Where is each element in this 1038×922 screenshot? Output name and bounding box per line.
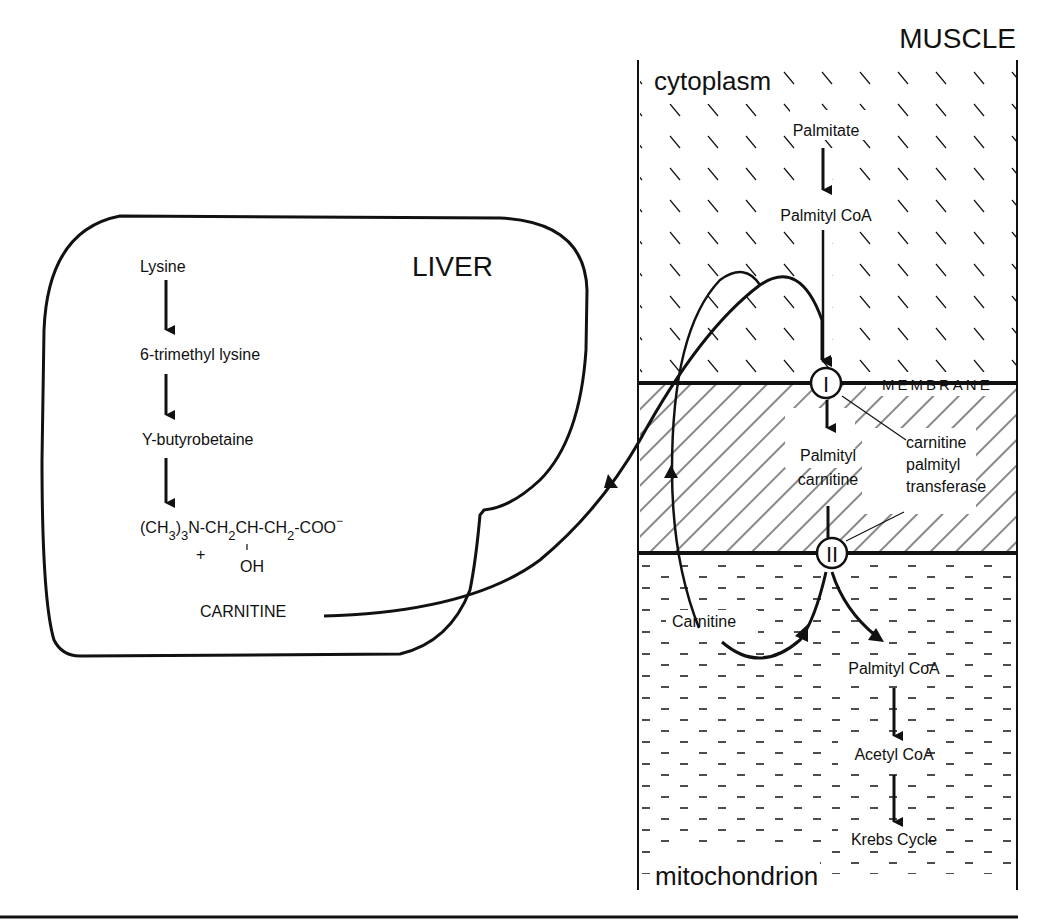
palmityl-carnitine-label-2: carnitine — [798, 471, 859, 488]
svg-text:OH: OH — [240, 558, 264, 575]
acetyl-coa-label: Acetyl CoA — [854, 746, 933, 763]
muscle-title: MUSCLE — [899, 23, 1016, 54]
carnitine-product-label: CARNITINE — [200, 603, 286, 620]
enzyme-site-I: I — [811, 368, 841, 398]
enzyme-name-line1: carnitine — [906, 434, 967, 451]
palmitate-label: Palmitate — [793, 122, 860, 139]
svg-text:(CH3)3N-CH2CH-CH2-COO−: (CH3)3N-CH2CH-CH2-COO− — [140, 514, 343, 543]
palmityl-coa-cytoplasm-label: Palmityl CoA — [780, 207, 872, 224]
carnitine-pathway-diagram: I II MUSCLE cytoplasm Palmitate Palmityl… — [0, 0, 1038, 922]
carnitine-recycled-label: Carnitine — [672, 613, 736, 630]
palmityl-coa-mito-label: Palmityl CoA — [848, 660, 940, 677]
enzyme-name-line2: palmityl — [906, 456, 960, 473]
mitochondrion-label: mitochondrion — [655, 861, 818, 891]
liver-outline — [42, 216, 587, 656]
lysine-label: Lysine — [140, 258, 186, 275]
enzyme-site-II: II — [817, 538, 847, 568]
butyrobetaine-label: Υ-butyrobetaine — [142, 431, 254, 448]
cytoplasm-label: cytoplasm — [654, 66, 771, 96]
liver-title: LIVER — [412, 251, 493, 282]
trimethyl-lysine-label: 6-trimethyl lysine — [140, 346, 260, 363]
membrane-label: MEMBRANE — [882, 376, 993, 393]
svg-text:+: + — [196, 546, 205, 563]
carnitine-formula: (CH3)3N-CH2CH-CH2-COO− + OH — [140, 514, 343, 575]
svg-text:I: I — [823, 372, 829, 397]
svg-text:II: II — [826, 542, 838, 567]
mitochondrion-hatch — [640, 556, 1016, 874]
palmityl-carnitine-label: Palmityl — [800, 447, 856, 464]
enzyme-name-line3: transferase — [906, 478, 986, 495]
krebs-cycle-label: Krebs Cycle — [851, 831, 937, 848]
